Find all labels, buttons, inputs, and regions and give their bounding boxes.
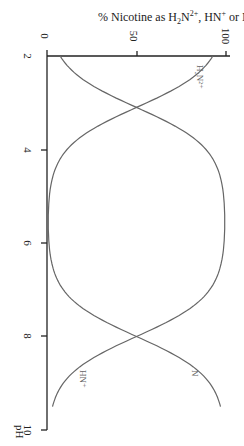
curve-hn (53, 56, 225, 407)
chart-plot (0, 0, 244, 446)
curve-h2n2-and-n (48, 56, 220, 407)
curves (48, 56, 224, 407)
